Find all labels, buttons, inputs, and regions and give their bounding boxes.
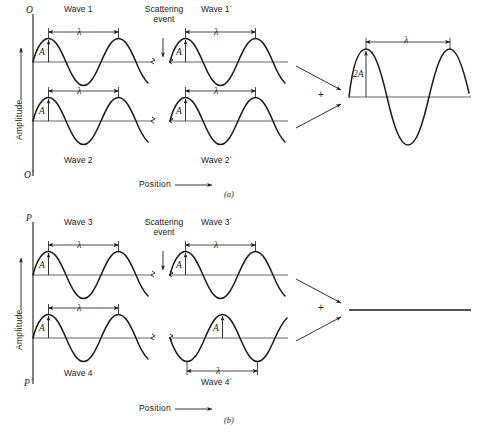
- panel-a-wave1: [33, 28, 155, 86]
- panel-b-wave4-prime-wavelength-label: λ: [216, 365, 220, 377]
- panel-b-wave3-prime-label: Wave 3´: [201, 218, 232, 228]
- panel-a-wave2-prime-wavelength-label: λ: [214, 85, 218, 97]
- panel-b-wave3-amplitude-label: A: [39, 260, 45, 271]
- panel-a-axis-top-label: O: [26, 5, 33, 16]
- panel-b-wave4-label: Wave 4: [64, 369, 93, 379]
- panel-a-x-axis-title: Position: [139, 180, 171, 190]
- panel-b-wave4-amplitude-label: A: [39, 323, 45, 334]
- panel-a-wave2-prime-amplitude-label: A: [176, 106, 182, 117]
- panel-a-y-axis-title: Amplitude: [14, 100, 24, 141]
- panel-a-wave1-prime-amplitude-label: A: [176, 47, 182, 58]
- panel-b-wave3-wavelength-label: λ: [77, 239, 81, 251]
- panel-b-wave4-prime: [169, 315, 288, 376]
- panel-a-wave1-prime-label: Wave 1´: [201, 5, 232, 15]
- panel-a-axis-bottom-label: O´: [24, 170, 34, 181]
- panel-b-scattering-label-line2: event: [133, 228, 195, 238]
- panel-b-x-axis-title: Position: [139, 404, 171, 414]
- panel-a-tag: (a): [224, 190, 234, 200]
- panel-b-wave3-prime-wavelength-label: λ: [214, 239, 218, 251]
- panel-b-wave3-prime-amplitude-label: A: [176, 260, 182, 271]
- panel-a-wave1-prime-wavelength-label: λ: [214, 26, 218, 38]
- panel-b-wave3-prime: [169, 241, 288, 299]
- panel-a-wave2-prime: [169, 87, 288, 145]
- panel-a-resultant-amplitude-label: 2A: [353, 69, 364, 80]
- panel-b-wave3-label: Wave 3: [64, 218, 93, 228]
- panel-a-sum-symbol: +: [318, 89, 324, 101]
- panel-b-wave3: [33, 241, 155, 299]
- panel-a-wave2-wavelength-label: λ: [77, 85, 81, 97]
- panel-a-wave2-prime-label: Wave 2´: [201, 156, 232, 166]
- panel-a-wave2: [33, 87, 155, 145]
- panel-a-wave1-label: Wave 1: [64, 5, 93, 15]
- panel-a-wave2-amplitude-label: A: [39, 106, 45, 117]
- interference-figure: O O´ Amplitude Position Scattering event…: [0, 0, 477, 439]
- panel-a-resultant-wave: [349, 38, 471, 145]
- panel-a-scattering-label-line2: event: [133, 15, 195, 25]
- panel-a-wave1-amplitude-label: A: [39, 47, 45, 58]
- panel-b-sum-symbol: +: [318, 302, 324, 314]
- panel-b-wave4: [33, 304, 155, 362]
- panel-a-wave2-label: Wave 2: [64, 156, 93, 166]
- panel-b-wave4-prime-label: Wave 4´: [201, 378, 232, 388]
- panel-b-y-axis-title: Amplitude: [14, 310, 24, 351]
- panel-a-wave1-wavelength-label: λ: [77, 26, 81, 38]
- panel-a-wave1-prime: [169, 28, 288, 86]
- panel-b-axis-top-label: P: [26, 213, 32, 224]
- panel-b-wave4-wavelength-label: λ: [77, 302, 81, 314]
- panel-b-tag: (b): [224, 416, 234, 426]
- panel-a-resultant-wavelength-label: λ: [404, 34, 408, 46]
- panel-b-wave4-prime-amplitude-label: A: [213, 323, 219, 334]
- panel-b-axis-bottom-label: P´: [24, 378, 33, 389]
